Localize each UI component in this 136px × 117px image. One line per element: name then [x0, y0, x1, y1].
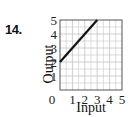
y-tick-label: 2 — [51, 55, 58, 70]
x-tick-label: 4 — [106, 92, 113, 107]
x-tick-label: 0 — [49, 92, 56, 107]
line-chart: 01234512345 — [0, 0, 136, 117]
y-tick-label: 1 — [51, 69, 58, 84]
y-tick-label: 4 — [51, 27, 58, 42]
y-tick-label: 3 — [51, 41, 58, 56]
x-tick-label: 2 — [82, 92, 89, 107]
x-tick-label: 1 — [69, 92, 76, 107]
y-tick-label: 5 — [51, 13, 58, 28]
x-tick-label: 5 — [119, 92, 126, 107]
x-tick-label: 3 — [94, 92, 101, 107]
